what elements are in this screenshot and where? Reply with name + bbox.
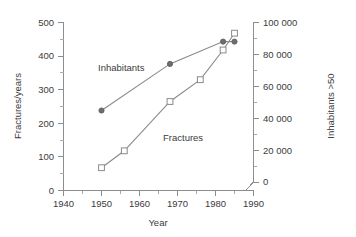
x-tick-label: 1980: [205, 198, 226, 209]
series-inhabitants-point: [167, 61, 172, 66]
right-tick-label: 40 000: [263, 113, 292, 124]
series-fractures: [99, 30, 238, 170]
left-tick-label: 400: [38, 50, 54, 61]
series-fractures-point: [232, 30, 238, 36]
right-axis-tick-labels: 100 000 80 000 60 000 40 000 20 000 0: [263, 17, 297, 188]
left-axis-title: Fractures/years: [12, 73, 23, 139]
series-inhabitants-point: [232, 39, 237, 44]
x-tick-label: 1990: [243, 198, 264, 209]
left-tick-label: 200: [38, 118, 54, 129]
x-tick-label: 1940: [53, 198, 74, 209]
right-tick-label: 80 000: [263, 49, 292, 60]
bottom-axis-tick-labels: 1940 1950 1960 1970 1980 1990: [53, 198, 264, 209]
series-fractures-point: [167, 99, 173, 105]
x-tick-label: 1960: [129, 198, 150, 209]
left-axis-ticks: [58, 23, 64, 191]
chart-figure: 500 400 300 200 100 0 Fractures/years 19…: [0, 0, 356, 237]
right-tick-label: 60 000: [263, 81, 292, 92]
left-tick-label: 300: [38, 84, 54, 95]
x-axis-title: Year: [148, 217, 167, 228]
series-label-fractures: Fractures: [163, 132, 203, 143]
x-tick-label: 1970: [167, 198, 188, 209]
series-inhabitants-point: [99, 108, 104, 113]
left-axis-tick-labels: 500 400 300 200 100 0: [38, 17, 54, 196]
bottom-axis-ticks: [64, 191, 254, 197]
right-tick-label: 20 000: [263, 145, 292, 156]
left-tick-label: 0: [49, 185, 54, 196]
series-fractures-point: [121, 148, 127, 154]
series-label-inhabitants: Inhabitants: [98, 62, 145, 73]
series-fractures-point: [197, 77, 203, 83]
right-tick-label: 0: [263, 176, 268, 187]
right-axis-ticks: [254, 23, 260, 183]
series-fractures-point: [99, 165, 105, 171]
chart-canvas: 500 400 300 200 100 0 Fractures/years 19…: [0, 0, 356, 237]
left-tick-label: 100: [38, 151, 54, 162]
right-axis-break-connector: [246, 182, 254, 191]
right-tick-label: 100 000: [263, 17, 297, 28]
series-inhabitants-point: [221, 39, 226, 44]
left-tick-label: 500: [38, 17, 54, 28]
right-axis-title: Inhabitants >50: [325, 73, 336, 138]
x-tick-label: 1950: [91, 198, 112, 209]
series-fractures-point: [220, 47, 226, 53]
